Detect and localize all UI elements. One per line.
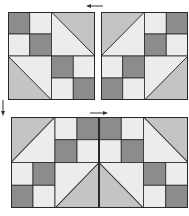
assembled-block-b-graphic: [11, 117, 99, 208]
assembled-row-right-block: [99, 117, 188, 208]
quilt-block-a: [8, 12, 95, 100]
quilt-block-b: [101, 12, 188, 100]
quilt-block-b-graphic: [101, 12, 188, 100]
quilt-block-a-graphic: [8, 12, 95, 100]
assembled-block-a-graphic: [99, 117, 188, 208]
arrow-right-icon: [90, 110, 108, 116]
arrow-down-icon: [0, 100, 6, 116]
arrow-left-icon: [86, 3, 104, 9]
assembled-row-left-block: [11, 117, 99, 208]
